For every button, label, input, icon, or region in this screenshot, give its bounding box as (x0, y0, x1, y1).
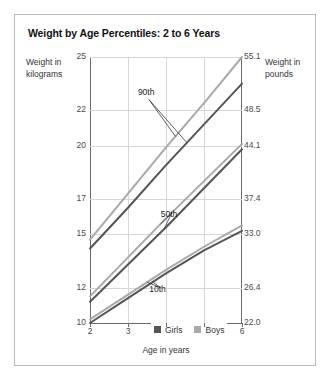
legend-item-girls: Girls (154, 325, 182, 335)
plot-area (90, 57, 242, 323)
y-tick-left-label: 22 (64, 104, 86, 114)
chart-legend: GirlsBoys (151, 323, 227, 336)
x-tick-label: 2 (82, 326, 98, 336)
legend-label: Boys (205, 325, 224, 335)
annotation-label-90th: 90th (138, 87, 155, 97)
y-tick-right-label: 26.4 (244, 282, 261, 292)
annotation-leader-lines (90, 57, 242, 325)
y-tick-left-label: 17 (64, 193, 86, 203)
legend-swatch-icon (154, 326, 161, 333)
x-tick-label: 6 (234, 326, 250, 336)
leader-line-90th (149, 100, 187, 143)
legend-label: Girls (165, 325, 182, 335)
x-tick-mark (204, 323, 205, 327)
x-tick-mark (90, 323, 91, 327)
legend-item-boys: Boys (194, 325, 224, 335)
chart-title: Weight by Age Percentiles: 2 to 6 Years (28, 27, 220, 39)
y-axis-left-ticks: 25222017151210 (60, 15, 86, 367)
annotation-label-10th: 10th (149, 284, 166, 294)
y-tick-left-label: 20 (64, 140, 86, 150)
y-tick-left-label: 12 (64, 282, 86, 292)
leader-line-90th (149, 100, 176, 137)
y-tick-left-label: 15 (64, 228, 86, 238)
y-tick-right-label: 48.5 (244, 104, 261, 114)
y-tick-right-label: 37.4 (244, 193, 261, 203)
x-axis-title: Age in years (15, 345, 317, 355)
y-tick-right-label: 33.0 (244, 228, 261, 238)
y-tick-right-label: 44.1 (244, 140, 261, 150)
chart-figure: Weight by Age Percentiles: 2 to 6 Years … (14, 14, 316, 366)
y-tick-left-label: 25 (64, 51, 86, 61)
y-tick-right-label: 55.1 (244, 51, 261, 61)
x-tick-mark (128, 323, 129, 327)
y-axis-right-ticks: 55.148.544.137.433.026.422.0 (244, 15, 274, 367)
x-tick-label: 3 (120, 326, 136, 336)
x-tick-mark (242, 323, 243, 327)
legend-swatch-icon (194, 326, 201, 333)
x-tick-mark (166, 323, 167, 327)
annotation-label-50th: 50th (161, 209, 178, 219)
y-axis-right-title: Weight in pounds (265, 57, 325, 80)
